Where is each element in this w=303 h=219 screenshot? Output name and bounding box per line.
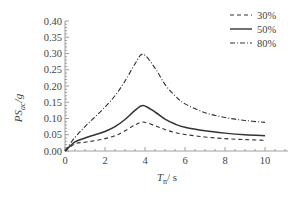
y-tick-label: 0.25	[44, 64, 62, 75]
x-axis-label: Tn/ s	[157, 171, 177, 186]
x-tick-label: 4	[142, 155, 148, 166]
y-tick-label: 0.35	[44, 32, 62, 43]
x-tick-label: 10	[260, 155, 271, 166]
y-tick-label: 0.20	[44, 81, 62, 92]
y-axis-label: PSac/g	[12, 93, 27, 123]
y-tick-label: 0.15	[44, 97, 62, 108]
series-lines	[65, 54, 265, 151]
y-tick-label: 0.05	[44, 129, 62, 140]
y-tick-label: 0.00	[44, 146, 62, 157]
legend: 30% 50% 80%	[230, 10, 277, 49]
legend-label-80: 80%	[257, 38, 277, 49]
series-line-30	[65, 122, 265, 151]
legend-label-50: 50%	[257, 24, 277, 35]
legend-label-30: 30%	[257, 10, 277, 21]
y-tick-label: 0.30	[44, 48, 62, 59]
series-line-50	[65, 105, 265, 151]
x-tick-label: 6	[182, 155, 187, 166]
x-tick-label: 2	[102, 155, 107, 166]
y-tick-label: 0.40	[44, 16, 62, 27]
x-tick-label: 8	[222, 155, 227, 166]
y-tick-label: 0.10	[44, 113, 62, 124]
series-line-80	[65, 54, 265, 151]
axes	[65, 21, 288, 151]
x-tick-label: 0	[62, 155, 67, 166]
chart: 0.000.050.100.150.200.250.300.350.400246…	[0, 0, 303, 219]
